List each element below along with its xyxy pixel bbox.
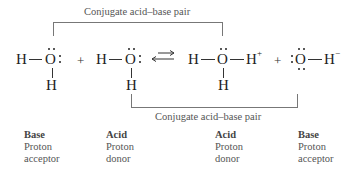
lone-pair-dot: [298, 48, 300, 50]
bond-single: [29, 59, 42, 60]
bottom-bracket-right-rise: [297, 94, 298, 108]
description-line: donor: [106, 153, 134, 165]
bottom-bracket-label: Conjugate acid–base pair: [155, 111, 261, 122]
label-acid-1: Acid Proton donor: [106, 129, 134, 165]
role-label: Acid: [106, 129, 134, 141]
atom-h: H: [126, 78, 137, 93]
lone-pair-dot: [303, 68, 305, 70]
role-label: Base: [298, 129, 334, 141]
negative-charge: −: [335, 49, 340, 58]
label-base-2: Base Proton acceptor: [298, 129, 334, 165]
atom-h: H: [96, 52, 107, 67]
bond-single: [308, 59, 322, 60]
lone-pair-dot: [303, 48, 305, 50]
description-line: Proton: [298, 141, 334, 153]
lone-pair-dot: [291, 55, 293, 57]
top-bracket-left-drop: [53, 22, 54, 36]
equilibrium-arrows-icon: [150, 48, 178, 64]
atom-h: H: [188, 52, 199, 67]
lone-pair-dot: [48, 48, 50, 50]
lone-pair-dot: [133, 48, 135, 50]
description-line: Proton: [106, 141, 134, 153]
atom-o: O: [295, 52, 306, 67]
bond-single: [109, 59, 122, 60]
bond-single: [201, 59, 215, 60]
top-bracket-right-drop: [222, 22, 223, 36]
bottom-bracket-horizontal-line: [131, 107, 298, 108]
atom-o: O: [125, 52, 136, 67]
lone-pair-dot: [139, 55, 141, 57]
description-line: acceptor: [24, 153, 60, 165]
plus-sign: +: [77, 54, 84, 67]
bond-single: [230, 59, 244, 60]
description-line: donor: [215, 153, 243, 165]
description-line: acceptor: [298, 153, 334, 165]
atom-h: H: [218, 78, 229, 93]
lone-pair-dot: [225, 48, 227, 50]
atom-o: O: [217, 52, 228, 67]
description-line: Proton: [215, 141, 243, 153]
atom-h: H: [46, 78, 57, 93]
top-bracket-horizontal-line: [53, 22, 223, 23]
role-label: Base: [24, 129, 60, 141]
lone-pair-dot: [298, 68, 300, 70]
description-line: Proton: [24, 141, 60, 153]
lone-pair-dot: [291, 61, 293, 63]
lone-pair-dot: [220, 48, 222, 50]
atom-o: O: [45, 52, 56, 67]
plus-sign: +: [274, 54, 281, 67]
atom-h: H: [246, 52, 257, 67]
lone-pair-dot: [59, 55, 61, 57]
lone-pair-dot: [53, 48, 55, 50]
positive-charge: +: [257, 49, 262, 58]
bottom-bracket-left-rise: [131, 94, 132, 108]
lone-pair-dot: [128, 48, 130, 50]
top-bracket-label: Conjugate acid–base pair: [84, 6, 190, 17]
lone-pair-dot: [139, 61, 141, 63]
role-label: Acid: [215, 129, 243, 141]
lone-pair-dot: [59, 61, 61, 63]
atom-h: H: [324, 52, 335, 67]
label-acid-2: Acid Proton donor: [215, 129, 243, 165]
atom-h: H: [16, 52, 27, 67]
label-base-1: Base Proton acceptor: [24, 129, 60, 165]
